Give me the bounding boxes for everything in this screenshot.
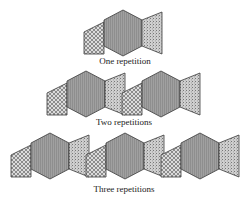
caption-one-repetition: One repetition	[99, 56, 151, 66]
speckled-trapezoid-shape	[219, 135, 239, 177]
motif	[86, 133, 164, 179]
motif-diagram	[0, 0, 245, 204]
speckled-trapezoid-shape	[180, 73, 200, 115]
rows-layer	[11, 10, 239, 179]
crosshatch-parallelogram-shape	[84, 22, 104, 54]
motif	[47, 71, 125, 117]
caption-two-repetitions: Two repetitions	[96, 117, 152, 127]
motif	[122, 71, 200, 117]
diagram-stage: One repetition Two repetitions Three rep…	[0, 0, 245, 204]
hexagon-shape	[181, 133, 219, 179]
hexagon-shape	[104, 10, 142, 56]
caption-three-repetitions: Three repetitions	[93, 184, 154, 194]
crosshatch-parallelogram-shape	[11, 145, 31, 177]
motif	[161, 133, 239, 179]
motif	[84, 10, 162, 56]
motif-row-3	[11, 133, 239, 179]
motif	[11, 133, 89, 179]
hexagon-shape	[67, 71, 105, 117]
motif-row-1	[84, 10, 162, 56]
hexagon-shape	[142, 71, 180, 117]
hexagon-shape	[106, 133, 144, 179]
crosshatch-parallelogram-shape	[47, 83, 67, 115]
speckled-trapezoid-shape	[142, 12, 162, 54]
motif-row-2	[47, 71, 200, 117]
hexagon-shape	[31, 133, 69, 179]
